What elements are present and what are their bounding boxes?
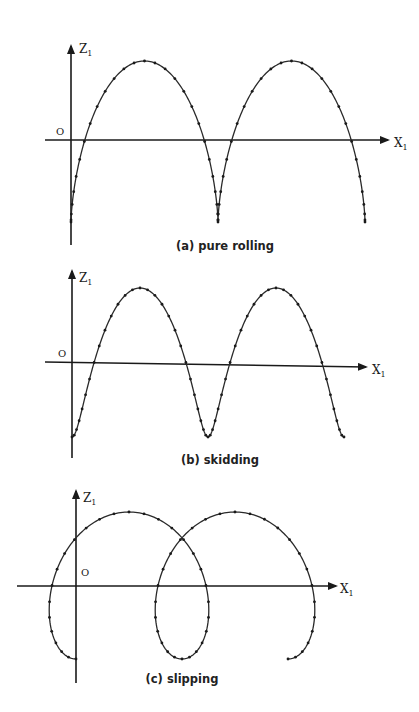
sample-point — [263, 518, 266, 521]
sample-point — [301, 62, 304, 65]
sample-point — [217, 213, 220, 216]
sample-point — [205, 584, 208, 587]
sample-point — [201, 642, 204, 645]
sample-point — [337, 105, 340, 108]
sample-point — [174, 329, 177, 332]
sample-point — [251, 90, 254, 93]
x-axis-label: X1 — [372, 363, 386, 379]
sample-point — [81, 408, 84, 411]
sample-point — [143, 60, 146, 63]
sample-point — [204, 434, 207, 437]
sample-point — [89, 122, 92, 125]
sample-point — [246, 315, 249, 318]
sample-point — [276, 527, 279, 530]
sample-point — [214, 190, 217, 193]
sample-point — [179, 538, 182, 541]
caption: (a) pure rolling — [176, 239, 274, 253]
sample-point — [182, 90, 185, 93]
sample-point — [290, 60, 293, 63]
sample-point — [211, 175, 214, 178]
sample-point — [230, 140, 233, 143]
sample-point — [205, 630, 208, 633]
z-axis-label: Z1 — [79, 271, 92, 287]
sample-point — [73, 538, 76, 541]
sample-point — [298, 552, 301, 555]
sample-point — [321, 361, 324, 364]
trajectory-curve — [71, 61, 365, 222]
sample-point — [157, 518, 160, 521]
sample-point — [185, 361, 188, 364]
z-axis-label: Z1 — [83, 491, 96, 507]
sample-point — [88, 378, 91, 381]
sample-point — [236, 122, 239, 125]
sample-point — [70, 213, 73, 216]
sample-point — [338, 428, 341, 431]
sample-point — [154, 600, 157, 603]
sample-point — [211, 428, 214, 431]
panel-a-pure-rolling: Z1 X1 O (a) pure rolling — [45, 42, 408, 253]
sample-point — [269, 68, 272, 71]
sample-point — [225, 158, 228, 161]
sample-point — [104, 329, 107, 332]
sample-point — [131, 288, 134, 291]
sample-point — [343, 436, 346, 439]
sample-point — [310, 329, 313, 332]
sample-point — [67, 656, 70, 659]
sample-point — [253, 303, 256, 306]
sample-point — [305, 568, 308, 571]
sample-point — [166, 650, 169, 653]
sample-point — [169, 552, 172, 555]
sample-point — [75, 428, 78, 431]
sample-point — [56, 568, 59, 571]
sample-point — [260, 294, 263, 297]
sample-point — [288, 538, 291, 541]
sample-point — [84, 393, 87, 396]
sample-point — [364, 221, 367, 224]
sample-point — [207, 616, 210, 619]
caption: (c) slipping — [146, 672, 219, 686]
sample-point — [48, 600, 51, 603]
sample-point — [98, 345, 101, 348]
sample-point — [167, 315, 170, 318]
sample-point — [350, 140, 353, 143]
sample-point — [96, 105, 99, 108]
panel-c-slipping: Z1 X1 O (c) slipping — [17, 491, 354, 686]
sample-point — [156, 630, 159, 633]
sample-point — [260, 77, 263, 80]
sample-point — [110, 315, 113, 318]
caption: (b) skidding — [181, 453, 259, 467]
sample-point — [154, 616, 157, 619]
sample-point — [117, 303, 120, 306]
sample-point — [311, 584, 314, 587]
sample-points — [70, 60, 367, 224]
sample-point — [139, 287, 142, 290]
sample-point — [189, 378, 192, 381]
sample-point — [311, 630, 314, 633]
sample-point — [267, 288, 270, 291]
x-axis-label: X1 — [340, 582, 354, 598]
sample-point — [329, 90, 332, 93]
sample-point — [164, 68, 167, 71]
sample-point — [196, 408, 199, 411]
sample-point — [224, 378, 227, 381]
sample-point — [78, 158, 81, 161]
sample-point — [240, 329, 243, 332]
sample-point — [128, 511, 131, 514]
sample-point — [275, 287, 278, 290]
sample-point — [303, 315, 306, 318]
sample-point — [287, 658, 290, 661]
sample-point — [217, 408, 220, 411]
sample-point — [170, 527, 173, 530]
sample-point — [329, 393, 332, 396]
sample-point — [358, 175, 361, 178]
sample-point — [280, 62, 283, 65]
sample-point — [50, 630, 53, 633]
sample-point — [51, 584, 54, 587]
sample-point — [154, 62, 157, 65]
sample-point — [192, 552, 195, 555]
sample-point — [161, 303, 164, 306]
sample-point — [335, 419, 338, 422]
z-axis-label: Z1 — [79, 42, 92, 58]
sample-point — [220, 393, 223, 396]
origin-label: O — [58, 348, 66, 359]
